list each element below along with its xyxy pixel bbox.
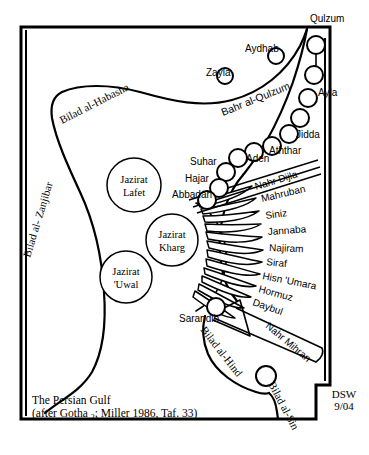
label-najiram: Najiram	[269, 242, 304, 254]
svg-text:Jazirat: Jazirat	[112, 266, 139, 277]
figure-title: The Persian Gulf	[32, 394, 111, 406]
map-canvas: Qulzum Ayla Jidda Aththar Aydhab Zayla A…	[0, 0, 369, 455]
svg-text:Jazirat: Jazirat	[158, 229, 185, 240]
label-aden: Aden	[246, 153, 269, 164]
port-marker-qulzum	[307, 36, 325, 54]
port-marker-ayla	[299, 89, 317, 107]
label-bilad-al-sin: Bilad al-Sin	[266, 379, 302, 432]
island-marker-lafet	[107, 158, 161, 212]
label-jidda: Jidda	[296, 129, 320, 140]
label-jannaba: Jannaba	[267, 223, 306, 237]
label-siraf: Siraf	[266, 256, 288, 269]
persian-gulf-map: Qulzum Ayla Jidda Aththar Aydhab Zayla A…	[0, 0, 369, 455]
svg-text:Lafet: Lafet	[123, 187, 145, 198]
label-aththar: Aththar	[269, 145, 302, 156]
label-bilad-al-habasha: Bilad al-Habasha	[57, 81, 130, 126]
port-marker-redsea-b	[291, 109, 309, 127]
credit-initials: DSW	[332, 388, 357, 400]
label-ayla: Ayla	[318, 87, 338, 98]
port-marker-redsea-a	[305, 66, 323, 84]
label-suhar: Suhar	[190, 156, 217, 167]
island-marker-uwal	[100, 251, 152, 303]
svg-text:'Uwal: 'Uwal	[114, 279, 139, 290]
svg-text:Jazirat: Jazirat	[120, 174, 147, 185]
island-marker-kharg	[146, 214, 198, 266]
label-abbadan: Abbadan	[172, 189, 212, 200]
label-aydhab: Aydhab	[245, 43, 279, 54]
label-zayla: Zayla	[206, 67, 231, 78]
label-bilad-al-hind: Bilad al-Hind	[198, 324, 245, 379]
credit-date: 9/04	[334, 400, 354, 412]
label-siniz: Siniz	[265, 207, 288, 221]
label-sarandib: Sarandib	[179, 313, 219, 324]
svg-text:Kharg: Kharg	[159, 242, 186, 253]
label-qulzum: Qulzum	[310, 13, 344, 24]
label-hajar: Hajar	[185, 173, 210, 184]
